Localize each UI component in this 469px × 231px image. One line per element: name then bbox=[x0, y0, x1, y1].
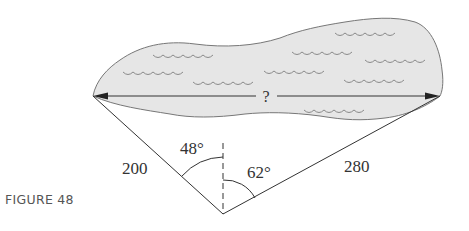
angle-right-label: 62° bbox=[247, 163, 271, 182]
angle-left-label: 48° bbox=[180, 139, 204, 158]
figure-caption: FIGURE 48 bbox=[5, 192, 74, 207]
figure-diagram: ? 200 48° 62° 280 FIGURE 48 bbox=[0, 0, 469, 231]
unknown-distance-label: ? bbox=[262, 88, 269, 105]
angle-arc-left bbox=[182, 157, 223, 176]
side-left-label: 200 bbox=[122, 159, 148, 178]
side-right-label: 280 bbox=[344, 157, 370, 176]
angle-arc-right bbox=[223, 180, 255, 198]
